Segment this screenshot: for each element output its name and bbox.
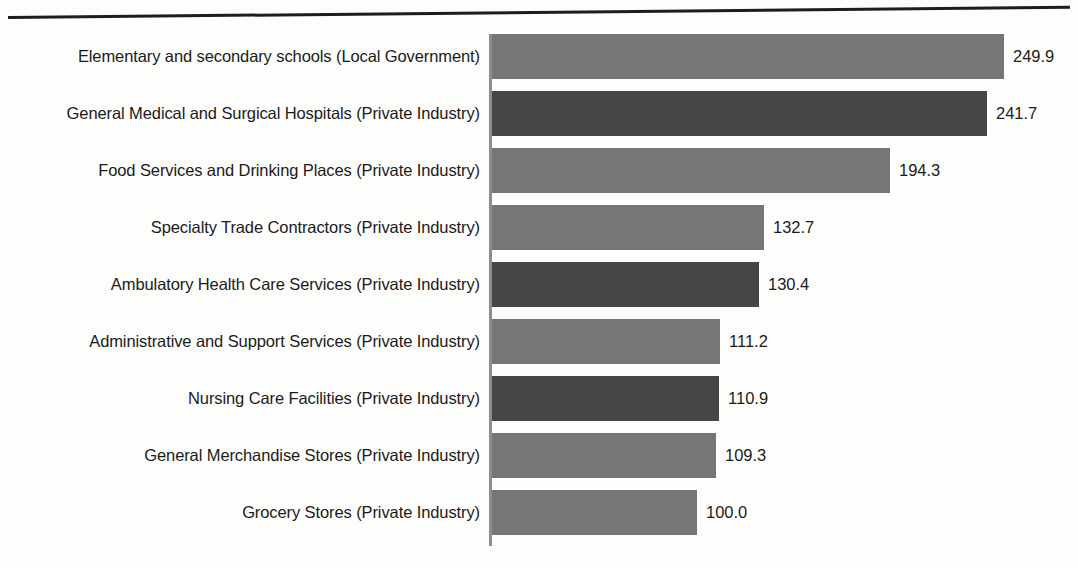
bar-row: Elementary and secondary schools (Local … bbox=[0, 34, 1078, 79]
category-label: Elementary and secondary schools (Local … bbox=[78, 34, 480, 79]
bar-row: Nursing Care Facilities (Private Industr… bbox=[0, 376, 1078, 421]
bar bbox=[492, 205, 764, 250]
bar-value-label: 241.7 bbox=[996, 91, 1037, 136]
bar bbox=[492, 34, 1004, 79]
horizontal-bar-chart: Elementary and secondary schools (Local … bbox=[0, 30, 1078, 550]
category-label: Administrative and Support Services (Pri… bbox=[89, 319, 480, 364]
bar-row: Ambulatory Health Care Services (Private… bbox=[0, 262, 1078, 307]
bar-value-label: 249.9 bbox=[1013, 34, 1054, 79]
bar-row: Grocery Stores (Private Industry)100.0 bbox=[0, 490, 1078, 535]
category-label: General Merchandise Stores (Private Indu… bbox=[144, 433, 480, 478]
bar bbox=[492, 433, 716, 478]
bar bbox=[492, 490, 697, 535]
bar-row: Administrative and Support Services (Pri… bbox=[0, 319, 1078, 364]
category-label: General Medical and Surgical Hospitals (… bbox=[67, 91, 480, 136]
category-label: Ambulatory Health Care Services (Private… bbox=[111, 262, 480, 307]
bar-value-label: 130.4 bbox=[768, 262, 809, 307]
bar bbox=[492, 91, 987, 136]
category-label: Specialty Trade Contractors (Private Ind… bbox=[151, 205, 480, 250]
category-label: Grocery Stores (Private Industry) bbox=[242, 490, 480, 535]
bar-value-label: 132.7 bbox=[773, 205, 814, 250]
bar-value-label: 110.9 bbox=[728, 376, 768, 421]
bar-value-label: 111.2 bbox=[729, 319, 768, 364]
chart-page: Elementary and secondary schools (Local … bbox=[0, 0, 1078, 568]
bar-row: Specialty Trade Contractors (Private Ind… bbox=[0, 205, 1078, 250]
category-label: Nursing Care Facilities (Private Industr… bbox=[188, 376, 480, 421]
header-divider bbox=[8, 6, 1070, 19]
bar-row: General Medical and Surgical Hospitals (… bbox=[0, 91, 1078, 136]
bar-value-label: 194.3 bbox=[899, 148, 940, 193]
bar-row: Food Services and Drinking Places (Priva… bbox=[0, 148, 1078, 193]
bar-value-label: 109.3 bbox=[725, 433, 766, 478]
bar bbox=[492, 262, 759, 307]
category-label: Food Services and Drinking Places (Priva… bbox=[98, 148, 480, 193]
bar bbox=[492, 148, 890, 193]
bar-value-label: 100.0 bbox=[706, 490, 747, 535]
bar bbox=[492, 376, 719, 421]
bar bbox=[492, 319, 720, 364]
bar-row: General Merchandise Stores (Private Indu… bbox=[0, 433, 1078, 478]
